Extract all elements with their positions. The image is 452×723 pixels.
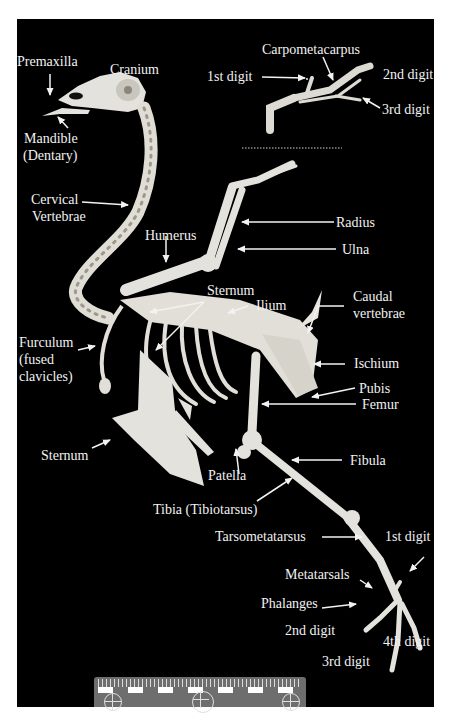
label-fibula: Fibula (350, 453, 386, 468)
globe-icon (192, 691, 214, 713)
label-pubis: Pubis (359, 381, 390, 396)
label-cervical-line2: Vertebrae (32, 209, 86, 224)
label-tarsometatarsus: Tarsometatarsus (215, 529, 306, 544)
crosshair-icon (104, 693, 122, 711)
label-cervical-line1: Cervical (31, 192, 78, 207)
scale-ruler (94, 677, 306, 707)
label-phalanges: Phalanges (261, 596, 318, 611)
label-sternum-upper: Sternum (207, 283, 254, 298)
ruler-ticks (98, 679, 302, 687)
label-foot-second-digit: 2nd digit (285, 623, 335, 638)
label-foot-third-digit: 3rd digit (322, 654, 370, 669)
label-mandible-line1: Mandible (24, 131, 78, 146)
label-furculum-line3: clavicles) (19, 369, 73, 384)
label-mandible-line2: (Dentary) (23, 148, 77, 163)
label-carpometacarpus: Carpometacarpus (262, 42, 360, 57)
skull (42, 72, 146, 116)
label-ulna: Ulna (342, 242, 369, 257)
label-tibia: Tibia (Tibiotarsus) (153, 502, 257, 517)
label-furculum-line1: Furculum (19, 335, 73, 350)
label-ischium: Ischium (354, 356, 399, 371)
label-cranium: Cranium (110, 62, 159, 77)
label-wing-first-digit: 1st digit (207, 69, 253, 84)
label-premaxilla: Premaxilla (17, 54, 78, 69)
label-caudal-line2: vertebrae (353, 306, 405, 321)
label-ilium: Ilium (256, 298, 286, 313)
label-patella: Patella (208, 468, 246, 483)
label-foot-fourth-digit: 4th digit (383, 634, 430, 649)
label-radius: Radius (336, 215, 375, 230)
label-wing-third-digit: 3rd digit (382, 102, 430, 117)
label-foot-first-digit: 1st digit (385, 529, 431, 544)
wing-inset (270, 66, 370, 130)
label-caudal-line1: Caudal (353, 289, 393, 304)
label-furculum-line2: (fused (19, 352, 54, 367)
label-wing-second-digit: 2nd digit (383, 67, 433, 82)
sternum-keel (112, 350, 214, 486)
label-humerus: Humerus (145, 228, 196, 243)
label-metatarsals: Metatarsals (285, 567, 350, 582)
crosshair-icon (282, 693, 300, 711)
label-femur: Femur (362, 397, 399, 412)
label-sternum-lower: Sternum (41, 448, 88, 463)
